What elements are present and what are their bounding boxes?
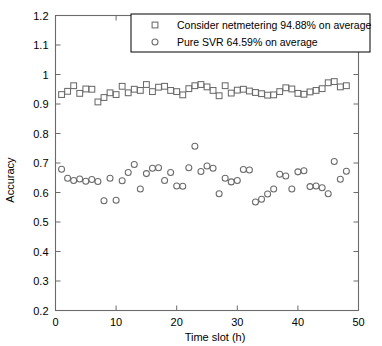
data-point-square [107, 90, 113, 96]
data-point-square [65, 88, 71, 94]
data-point-circle [95, 179, 101, 185]
data-point-circle [156, 165, 162, 171]
data-point-circle [234, 177, 240, 183]
data-point-circle [313, 183, 319, 189]
data-point-square [83, 86, 89, 92]
data-point-circle [295, 169, 301, 175]
x-tick-label: 50 [352, 316, 364, 328]
data-point-square [113, 92, 119, 98]
data-point-circle [246, 167, 252, 173]
y-axis-ticks: 0.20.30.40.50.60.70.80.911.11.2 [33, 10, 358, 317]
data-point-circle [283, 173, 289, 179]
data-point-circle [252, 199, 258, 205]
y-tick-label: 0.6 [33, 187, 48, 199]
data-point-circle [277, 171, 283, 177]
data-point-circle [265, 191, 271, 197]
data-point-circle [89, 177, 95, 183]
x-tick-label: 30 [231, 316, 243, 328]
data-point-square [162, 83, 168, 89]
data-point-square [307, 89, 313, 95]
data-point-circle [210, 165, 216, 171]
data-point-square [240, 86, 246, 92]
data-point-circle [65, 175, 71, 181]
data-point-circle [271, 186, 277, 192]
legend: Consider netmetering 94.88% on averagePu… [131, 14, 372, 52]
data-point-circle [319, 185, 325, 191]
data-point-square [277, 89, 283, 95]
x-axis-label: Time slot (h) [185, 331, 246, 343]
data-point-circle [162, 177, 168, 183]
data-point-circle [131, 161, 137, 167]
data-point-square [337, 84, 343, 90]
data-point-square [198, 82, 204, 88]
data-point-circle [331, 159, 337, 165]
chart-figure: 0.20.30.40.50.60.70.80.911.11.2 01020304… [0, 0, 382, 346]
legend-label: Consider netmetering 94.88% on average [177, 19, 372, 31]
data-point-square [186, 86, 192, 92]
y-tick-label: 1.1 [33, 39, 48, 51]
data-point-circle [222, 175, 228, 181]
data-point-square [125, 90, 131, 96]
data-point-circle [198, 169, 204, 175]
data-point-circle [59, 166, 65, 172]
data-point-square [289, 86, 295, 92]
y-tick-label: 0.9 [33, 98, 48, 110]
data-point-circle [149, 165, 155, 171]
data-point-circle [168, 169, 174, 175]
y-tick-label: 0.4 [33, 246, 48, 258]
data-point-circle [337, 176, 343, 182]
legend-label: Pure SVR 64.59% on average [177, 36, 318, 48]
data-point-square [228, 90, 234, 96]
data-point-square [271, 92, 277, 98]
data-point-circle [216, 191, 222, 197]
x-tick-label: 40 [292, 316, 304, 328]
scatter-plot: 0.20.30.40.50.60.70.80.911.11.2 01020304… [0, 0, 382, 346]
data-point-circle [107, 175, 113, 181]
x-tick-label: 10 [110, 316, 122, 328]
x-tick-label: 0 [52, 316, 58, 328]
data-point-square [156, 84, 162, 90]
data-point-circle [101, 198, 107, 204]
data-point-square [295, 90, 301, 96]
data-point-circle [289, 186, 295, 192]
data-point-square [319, 86, 325, 92]
data-point-square [331, 79, 337, 85]
data-point-circle [343, 168, 349, 174]
data-point-square [301, 91, 307, 97]
data-point-square [174, 89, 180, 95]
data-point-circle [83, 178, 89, 184]
data-point-square [253, 90, 259, 96]
data-point-square [265, 92, 271, 98]
data-point-square [59, 92, 65, 98]
data-point-circle [125, 169, 131, 175]
data-point-square [222, 83, 228, 89]
y-tick-label: 0.2 [33, 305, 48, 317]
data-point-circle [301, 168, 307, 174]
y-axis-label: Accuracy [4, 157, 16, 203]
data-point-square [144, 82, 150, 88]
x-axis-ticks: 01020304050 [52, 16, 364, 328]
data-point-circle [325, 191, 331, 197]
data-point-circle [228, 179, 234, 185]
data-point-square [313, 88, 319, 94]
data-point-square [210, 88, 216, 94]
data-point-square [343, 83, 349, 89]
data-point-square [101, 95, 107, 101]
data-point-square [247, 88, 253, 94]
data-point-square [89, 86, 95, 92]
data-point-circle [137, 186, 143, 192]
y-tick-label: 0.5 [33, 216, 48, 228]
data-point-square [216, 93, 222, 99]
data-point-circle [174, 183, 180, 189]
data-point-square [71, 83, 77, 89]
data-point-square [77, 90, 83, 96]
data-point-square [119, 83, 125, 89]
data-point-square [234, 87, 240, 93]
data-point-circle [204, 163, 210, 169]
data-point-circle [307, 184, 313, 190]
y-tick-label: 0.8 [33, 128, 48, 140]
data-point-circle [77, 176, 83, 182]
data-point-square [204, 84, 210, 90]
data-point-circle [180, 183, 186, 189]
data-point-circle [259, 196, 265, 202]
